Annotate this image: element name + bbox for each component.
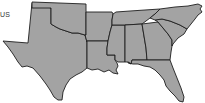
southern-us-map xyxy=(0,0,205,103)
state-florida[interactable] xyxy=(128,60,184,102)
